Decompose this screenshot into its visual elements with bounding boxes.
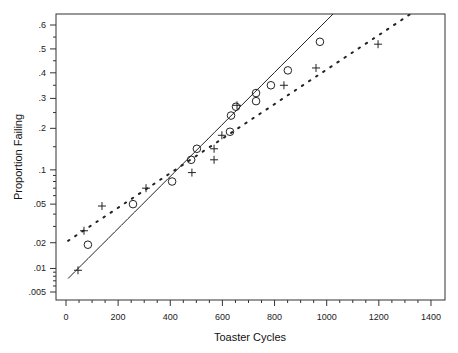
plus-point <box>80 227 88 235</box>
circle-point <box>129 200 137 208</box>
y-tick-label: .01 <box>33 263 46 273</box>
y-tick-label: .3 <box>38 93 46 103</box>
circle-point <box>252 97 260 105</box>
circle-point <box>168 178 176 186</box>
data-points <box>74 38 382 274</box>
y-tick-label: .02 <box>33 238 46 248</box>
circle-point <box>316 38 324 46</box>
y-tick-label: .2 <box>38 123 46 133</box>
circle-point <box>232 103 240 111</box>
fit-lines <box>68 13 413 279</box>
y-tick-label: .4 <box>38 68 46 78</box>
x-tick-label: 200 <box>111 312 126 322</box>
plus-point <box>74 266 82 274</box>
circle-point <box>267 81 275 89</box>
plot-frame <box>56 14 445 300</box>
y-tick-label: .5 <box>38 44 46 54</box>
x-tick-label: 0 <box>63 312 68 322</box>
x-tick-label: 1200 <box>369 312 389 322</box>
x-tick-label: 1400 <box>421 312 441 322</box>
x-axis: 0200400600800100012001400 <box>63 300 441 322</box>
circle-point <box>187 156 195 164</box>
y-tick-label: .05 <box>33 199 46 209</box>
dotted-fit-line <box>68 13 413 241</box>
circle-point <box>193 145 201 153</box>
plus-point <box>188 169 196 177</box>
y-tick-label: .005 <box>28 287 46 297</box>
x-tick-label: 400 <box>163 312 178 322</box>
plus-point <box>142 184 150 192</box>
plus-point <box>98 202 106 210</box>
plus-point <box>312 64 320 72</box>
y-axis: .6.5.4.3.2.1.05.02.01.005 <box>28 20 56 297</box>
plus-point <box>374 40 382 48</box>
x-tick-label: 800 <box>267 312 282 322</box>
y-axis-title: Proportion Failing <box>12 114 24 200</box>
y-tick-label: .6 <box>38 20 46 30</box>
x-axis-title: Toaster Cycles <box>214 331 287 343</box>
y-tick-label: .1 <box>38 165 46 175</box>
circle-point <box>284 67 292 75</box>
x-tick-label: 600 <box>215 312 230 322</box>
plus-point <box>280 81 288 89</box>
plus-point <box>210 156 218 164</box>
solid-fit-line <box>68 13 334 279</box>
chart: 0200400600800100012001400 .6.5.4.3.2.1.0… <box>0 0 458 353</box>
x-tick-label: 1000 <box>317 312 337 322</box>
circle-point <box>84 241 92 249</box>
